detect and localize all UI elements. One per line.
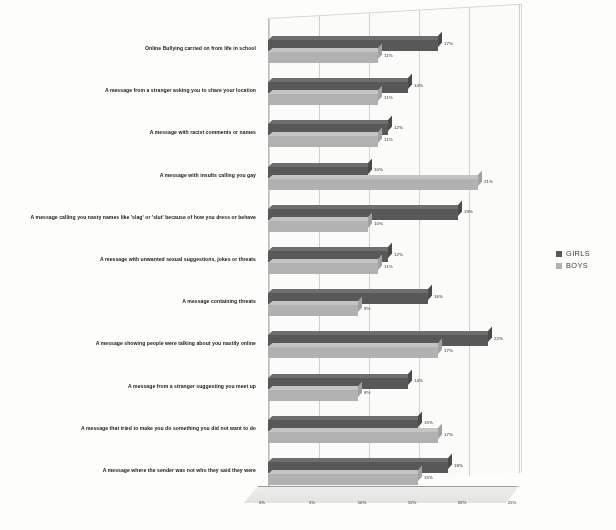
chart-legend: GIRLSBOYS <box>556 250 590 275</box>
legend-swatch <box>556 251 562 257</box>
category-label: A message showing people were talking ab… <box>96 341 256 346</box>
category-label: A message from a stranger asking you to … <box>105 88 256 93</box>
category-label: A message calling you nasty names like '… <box>31 215 256 220</box>
category-label: A message with insults calling you gay <box>160 173 256 178</box>
category-label: A message with racist comments or names <box>150 130 256 135</box>
category-label: Online Bullying carried on from life in … <box>145 46 256 51</box>
legend-swatch <box>556 263 562 269</box>
legend-item-girls[interactable]: GIRLS <box>556 250 590 257</box>
legend-item-boys[interactable]: BOYS <box>556 262 590 269</box>
category-label: A message from a stranger suggesting you… <box>128 384 256 389</box>
bar-chart: 17%11%14%11%12%11%10%21%19%10%12%11%16%9… <box>0 0 616 530</box>
category-label: A message that tried to make you do some… <box>81 426 256 431</box>
category-label: A message with unwanted sexual suggestio… <box>100 257 256 262</box>
category-labels: Online Bullying carried on from life in … <box>0 0 616 530</box>
legend-label: BOYS <box>566 262 588 269</box>
category-label: A message where the sender was not who t… <box>103 468 256 473</box>
category-label: A message containing threats <box>182 299 256 304</box>
legend-label: GIRLS <box>566 250 590 257</box>
